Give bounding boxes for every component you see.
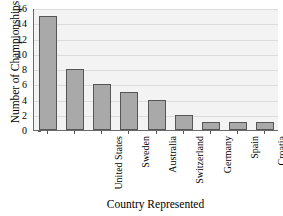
bar-series [34,9,278,130]
x-tick-mark [101,131,102,134]
bar [175,115,193,130]
x-tick-mark [183,131,184,134]
x-tick-mark [210,131,211,134]
x-tick-mark [47,131,48,134]
plot-area [33,9,278,131]
x-tick-mark [74,131,75,134]
y-tick-label: 12 [8,35,27,45]
bar [229,122,247,130]
x-category-label: Switzerland [194,136,206,208]
x-category-label: Sweden [140,136,152,208]
y-tick-label: 14 [8,19,27,29]
bar [202,122,220,130]
bar-chart-figure: Number of Championships 0246810121416 Co… [0,0,283,216]
x-category-label: Australia [167,136,179,208]
bar [93,84,111,130]
bar [120,92,138,130]
y-tick-mark [38,131,41,132]
y-tick-label: 6 [8,80,27,90]
x-tick-mark [128,131,129,134]
bar [148,100,166,131]
x-tick-mark [237,131,238,134]
bar [256,122,274,130]
y-tick-label: 16 [8,4,27,14]
x-category-label: Germany [222,136,234,208]
x-category-label: United States [113,136,125,208]
y-tick-label: 4 [8,96,27,106]
y-tick-label: 10 [8,50,27,60]
x-category-label: Spain [249,136,261,208]
y-tick-label: 0 [8,126,27,136]
x-axis-title: Country Represented [33,198,278,210]
x-tick-mark [264,131,265,134]
bar [39,16,57,130]
y-axis-tick-labels: 0246810121416 [8,9,27,131]
x-tick-mark [156,131,157,134]
bar [66,69,84,130]
y-tick-label: 8 [8,65,27,75]
y-tick-label: 2 [8,111,27,121]
x-category-label: Croatia [276,136,283,208]
